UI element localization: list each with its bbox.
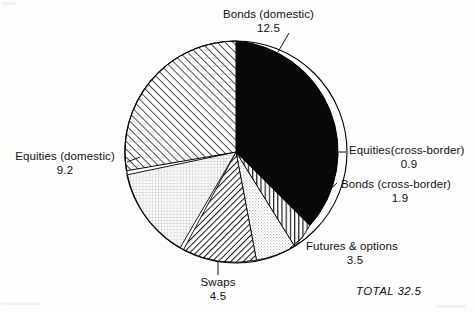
label-equities-domestic-value: 9.2 xyxy=(6,164,124,178)
label-equities-domestic-name: Equities (domestic) xyxy=(15,150,115,162)
label-equities-domestic[interactable]: Equities (domestic) 9.2 xyxy=(6,150,124,177)
label-bonds-cross-border-value: 1.9 xyxy=(341,192,459,206)
label-swaps-value: 4.5 xyxy=(186,290,250,304)
label-futures-options-value: 3.5 xyxy=(306,254,404,268)
total-label: TOTAL 32.5 xyxy=(356,285,421,297)
label-equities-cross-border[interactable]: Equities(cross-border) 0.9 xyxy=(349,144,475,171)
label-bonds-domestic-value: 12.5 xyxy=(196,22,341,36)
label-equities-cross-border-name: Equities(cross-border) xyxy=(349,144,464,156)
scan-artifact xyxy=(1,302,41,305)
label-bonds-domestic-name: Bonds (domestic) xyxy=(223,8,314,20)
label-equities-cross-border-value: 0.9 xyxy=(349,158,469,172)
label-bonds-cross-border[interactable]: Bonds (cross-border) 1.9 xyxy=(341,178,471,205)
label-swaps[interactable]: Swaps 4.5 xyxy=(186,276,250,303)
leader-bonds-domestic xyxy=(278,33,289,52)
scan-artifact xyxy=(2,2,16,5)
label-swaps-name: Swaps xyxy=(200,276,235,288)
label-futures-options-name: Futures & options xyxy=(306,240,398,252)
label-bonds-cross-border-name: Bonds (cross-border) xyxy=(341,178,451,190)
chart-page: Bonds (domestic) 12.5 Equities(cross-bor… xyxy=(0,0,475,312)
slice-equities-domestic[interactable] xyxy=(125,41,236,171)
scan-artifact xyxy=(436,305,466,308)
label-futures-options[interactable]: Futures & options 3.5 xyxy=(306,240,426,267)
label-bonds-domestic[interactable]: Bonds (domestic) 12.5 xyxy=(196,8,341,35)
